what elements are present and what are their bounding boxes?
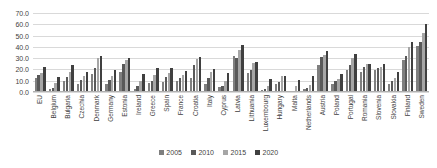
x-axis-tick-label: Luxembourg — [263, 95, 270, 131]
x-axis-tick-label: Netherlands — [305, 95, 312, 130]
bar-group — [118, 13, 132, 92]
plot-area — [33, 13, 429, 92]
bar-group — [90, 13, 104, 92]
x-axis-label-cell: Greece — [146, 93, 160, 145]
bar — [57, 77, 59, 92]
bar-group — [47, 13, 61, 92]
x-axis-tick-label: Sweden — [419, 95, 426, 119]
x-axis-tick-label: Germany — [108, 95, 115, 122]
x-axis-tick-label: Lithuania — [249, 95, 256, 121]
y-axis-tick-label: 40.0 — [15, 43, 29, 50]
bar — [284, 76, 286, 92]
legend-swatch — [159, 150, 164, 155]
bar-group — [245, 13, 259, 92]
legend-swatch — [255, 150, 260, 155]
bar-group — [75, 13, 89, 92]
bar — [114, 70, 116, 92]
legend-item[interactable]: 2010 — [191, 149, 214, 156]
bar — [241, 45, 243, 92]
bar — [383, 64, 385, 92]
bar-group — [160, 13, 174, 92]
x-axis-label-cell: Czechia — [75, 93, 89, 145]
bar-group — [132, 13, 146, 92]
y-axis-tick-label: 0.0 — [19, 89, 29, 96]
x-axis-tick-label: Hungary — [277, 95, 284, 120]
x-axis-label-cell: Slovenia — [372, 93, 386, 145]
x-axis-tick-label: Denmark — [93, 95, 100, 121]
bar-group — [288, 13, 302, 92]
x-axis-tick-label: Romania — [362, 95, 369, 121]
bar-group — [401, 13, 415, 92]
x-axis-label-cell: Luxembourg — [259, 93, 273, 145]
bar — [340, 74, 342, 92]
legend-item[interactable]: 2015 — [223, 149, 246, 156]
x-axis-label-cell: Ireland — [132, 93, 146, 145]
legend-swatch — [223, 150, 228, 155]
x-axis-tick-label: Malta — [291, 95, 298, 111]
y-axis-tick-label: 30.0 — [15, 55, 29, 62]
bar-group — [231, 13, 245, 92]
bar-group — [259, 13, 273, 92]
x-axis-tick-label: Cyprus — [221, 95, 228, 116]
x-axis-label-cell: Bulgaria — [61, 93, 75, 145]
bar — [397, 72, 399, 92]
bar-group — [189, 13, 203, 92]
bar — [227, 73, 229, 92]
x-axis-label-cell: Portugal — [344, 93, 358, 145]
x-axis-tick-label: France — [178, 95, 185, 115]
x-axis-label-cell: Romania — [358, 93, 372, 145]
x-axis-tick-label: Portugal — [348, 95, 355, 119]
legend-label: 2020 — [263, 149, 279, 156]
bar-group — [344, 13, 358, 92]
bar-group — [273, 13, 287, 92]
x-axis-label-cell: Spain — [160, 93, 174, 145]
legend-item[interactable]: 2005 — [159, 149, 182, 156]
bar — [354, 54, 356, 92]
x-axis-tick-label: Finland — [404, 95, 411, 116]
x-axis-label-cell: Estonia — [118, 93, 132, 145]
x-axis-tick-label: Estonia — [122, 95, 129, 117]
x-axis-label-cell: Italy — [203, 93, 217, 145]
bar — [43, 67, 45, 92]
bar — [100, 56, 102, 92]
x-axis-label-cell: Sweden — [415, 93, 429, 145]
bar — [170, 68, 172, 92]
x-axis-label-cell: Netherlands — [302, 93, 316, 145]
legend-item[interactable]: 2020 — [255, 149, 278, 156]
bar-group — [104, 13, 118, 92]
bar-group — [217, 13, 231, 92]
x-axis-tick-label: Italy — [207, 95, 214, 107]
bar-group — [358, 13, 372, 92]
legend-swatch — [191, 150, 196, 155]
y-axis-tick-label: 70.0 — [15, 10, 29, 17]
bar — [128, 58, 130, 92]
legend-label: 2010 — [198, 149, 214, 156]
x-axis-label-cell: Belgium — [47, 93, 61, 145]
x-axis-tick-label: Austria — [320, 95, 327, 115]
bars-layer — [33, 13, 429, 92]
x-axis-tick-label: Croatia — [192, 95, 199, 116]
bar — [142, 74, 144, 92]
legend-label: 2005 — [166, 149, 182, 156]
legend-label: 2015 — [231, 149, 247, 156]
x-axis-label-cell: Finland — [401, 93, 415, 145]
bar-group — [415, 13, 429, 92]
x-axis-labels: EUBelgiumBulgariaCzechiaDenmarkGermanyEs… — [33, 93, 429, 145]
bar — [255, 62, 257, 92]
x-axis-label-cell: Hungary — [273, 93, 287, 145]
bar-group — [61, 13, 75, 92]
bar — [86, 72, 88, 92]
x-axis-tick-label: Ireland — [136, 95, 143, 115]
y-axis-tick-label: 10.0 — [15, 77, 29, 84]
x-axis-tick-label: Slovakia — [390, 95, 397, 120]
bar — [71, 65, 73, 92]
x-axis-label-cell: France — [174, 93, 188, 145]
bar-group — [316, 13, 330, 92]
x-axis-tick-label: Poland — [334, 95, 341, 115]
bar-group — [174, 13, 188, 92]
x-axis-line — [33, 91, 429, 92]
x-axis-label-cell: Croatia — [189, 93, 203, 145]
bar — [213, 69, 215, 92]
x-axis-label-cell: EU — [33, 93, 47, 145]
bar — [199, 57, 201, 92]
